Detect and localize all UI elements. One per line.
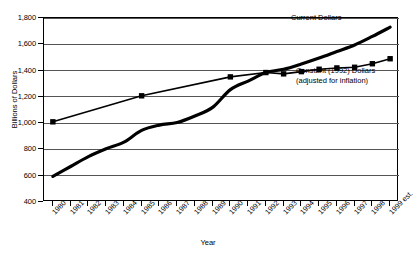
x-axis: 1980198119821983198419851986198719881989… xyxy=(43,201,398,213)
x-axis-title: Year xyxy=(0,238,416,247)
data-point-marker xyxy=(263,70,268,75)
series-label-current-dollars: Current Dollars xyxy=(291,13,341,23)
y-tick-mark xyxy=(38,175,43,176)
x-tick-mark xyxy=(70,201,71,206)
data-point-marker xyxy=(228,74,233,79)
y-tick-mark xyxy=(38,96,43,97)
y-tick-mark xyxy=(38,17,43,18)
x-tick-mark xyxy=(336,201,337,206)
series-label-constant-dollars-subtext: (adjusted for inflation) xyxy=(296,76,375,86)
x-tick-mark xyxy=(52,201,53,206)
x-tick-mark xyxy=(194,201,195,206)
x-tick-mark xyxy=(283,201,284,206)
data-point-marker xyxy=(387,56,392,61)
data-point-marker xyxy=(139,93,144,98)
y-axis-title: Billions of Dollars xyxy=(10,50,19,150)
y-tick-label: 800 xyxy=(24,144,36,153)
y-tick-mark xyxy=(38,43,43,44)
series-line xyxy=(53,27,390,176)
x-tick-mark xyxy=(354,201,355,206)
series-label-current-dollars-text: Current Dollars xyxy=(291,13,341,22)
y-tick-mark xyxy=(38,70,43,71)
x-tick-mark xyxy=(265,201,266,206)
series-label-constant-dollars: Constant (1992) Dollars (adjusted for in… xyxy=(296,66,375,86)
series-label-constant-dollars-text: Constant (1992) Dollars xyxy=(296,66,375,76)
x-tick-mark xyxy=(123,201,124,206)
y-tick-label: 1,800 xyxy=(18,13,36,22)
data-point-marker xyxy=(281,71,286,76)
data-point-marker xyxy=(50,119,55,124)
plot-area xyxy=(43,17,398,201)
y-tick-mark xyxy=(38,122,43,123)
x-tick-mark xyxy=(212,201,213,206)
chart-container: 4006008001,0001,2001,4001,6001,800 Billi… xyxy=(0,0,416,258)
y-tick-label: 1,600 xyxy=(18,39,36,48)
x-tick-mark xyxy=(141,201,142,206)
y-tick-label: 600 xyxy=(24,170,36,179)
y-tick-label: 1,200 xyxy=(18,91,36,100)
series-current-dollars xyxy=(53,27,390,176)
y-tick-label: 400 xyxy=(24,197,36,206)
y-tick-label: 1,400 xyxy=(18,65,36,74)
y-tick-mark xyxy=(38,148,43,149)
series-group xyxy=(44,18,399,202)
y-tick-label: 1,000 xyxy=(18,118,36,127)
y-axis: 4006008001,0001,2001,4001,6001,800 xyxy=(0,17,43,201)
